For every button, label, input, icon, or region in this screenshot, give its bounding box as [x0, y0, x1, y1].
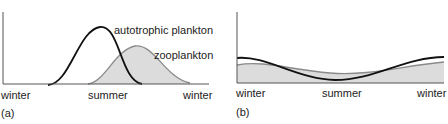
- tick-a-winter-right: winter: [182, 89, 213, 101]
- figure: winter summer winter (a) autotrophic pla…: [0, 0, 448, 124]
- tick-b-winter-left: winter: [235, 87, 266, 99]
- tick-b-winter-right: winter: [416, 87, 447, 99]
- panel-a: winter summer winter (a) autotrophic pla…: [0, 12, 213, 119]
- panel-label-a: (a): [1, 107, 14, 119]
- annotation-autotrophic-plankton: autotrophic plankton: [114, 24, 213, 36]
- tick-b-summer: summer: [322, 87, 362, 99]
- panel-b: winter summer winter (b): [235, 12, 447, 118]
- tick-a-summer: summer: [88, 89, 128, 101]
- tick-a-winter-left: winter: [0, 89, 31, 101]
- panel-label-b: (b): [236, 106, 249, 118]
- annotation-zooplankton: zooplankton: [154, 49, 213, 61]
